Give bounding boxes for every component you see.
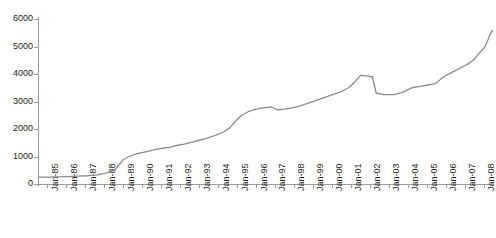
x-tick-mark	[180, 184, 181, 188]
x-tick-mark	[237, 184, 238, 188]
x-tick-mark	[161, 184, 162, 188]
x-tick-mark	[104, 184, 105, 188]
x-tick-mark	[351, 184, 352, 188]
y-tick-label-text: 0	[3, 179, 33, 188]
y-tick-mark	[34, 184, 38, 185]
x-tick-mark	[389, 184, 390, 188]
plot-area	[38, 19, 493, 184]
y-tick-label: 6000	[0, 14, 33, 23]
x-tick-mark	[218, 184, 219, 188]
y-tick-label-text: 4000	[3, 69, 33, 78]
y-tick-label-text: 5000	[3, 42, 33, 51]
y-tick-label: 5000	[0, 42, 33, 51]
x-tick-mark	[256, 184, 257, 188]
x-tick-mark	[275, 184, 276, 188]
series-line	[38, 19, 493, 184]
y-tick-label: 1000	[0, 152, 33, 161]
y-tick-label: 2000	[0, 124, 33, 133]
y-tick-label-text: 2000	[3, 124, 33, 133]
x-tick-mark	[66, 184, 67, 188]
y-tick-label-text: 3000	[3, 97, 33, 106]
x-tick-mark	[427, 184, 428, 188]
x-tick-mark	[85, 184, 86, 188]
y-tick-label-text: 6000	[3, 14, 33, 23]
x-tick-mark	[446, 184, 447, 188]
x-tick-mark	[142, 184, 143, 188]
x-tick-mark	[370, 184, 371, 188]
y-tick-label: 4000	[0, 69, 33, 78]
x-tick-mark	[332, 184, 333, 188]
x-tick-mark	[408, 184, 409, 188]
x-tick-mark	[123, 184, 124, 188]
x-tick-mark	[465, 184, 466, 188]
x-tick-mark	[313, 184, 314, 188]
x-tick-mark	[47, 184, 48, 188]
y-tick-label: 0	[0, 179, 33, 188]
x-tick-mark	[199, 184, 200, 188]
x-tick-mark	[484, 184, 485, 188]
x-tick-mark	[294, 184, 295, 188]
y-tick-label: 3000	[0, 97, 33, 106]
y-tick-label-text: 1000	[3, 152, 33, 161]
